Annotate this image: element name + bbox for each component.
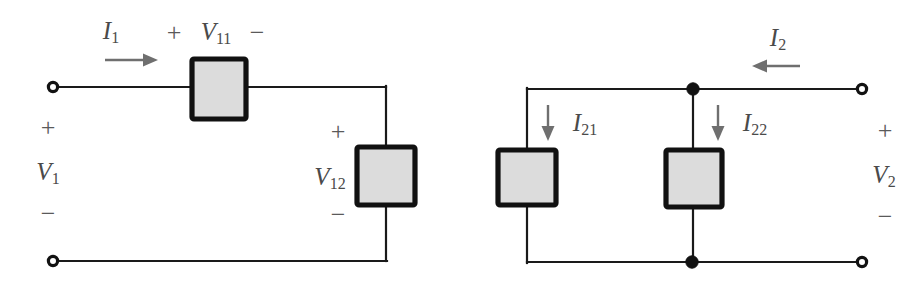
terminal-1-top: [48, 82, 57, 91]
node-top-junction: [687, 83, 699, 95]
current-arrow-i21: [542, 105, 555, 141]
label-i22: I22: [742, 109, 767, 138]
label-v2: V2: [872, 161, 895, 190]
polarity-v1-top: +: [41, 113, 56, 142]
label-i21: I21: [572, 109, 597, 138]
resistor-box-v11: [192, 59, 246, 119]
polarity-v1-bottom: −: [41, 199, 56, 228]
polarity-v12-bottom: −: [331, 200, 346, 229]
terminal-2-top: [857, 84, 866, 93]
resistor-box-i21: [498, 150, 556, 205]
resistor-box-i22: [666, 150, 722, 207]
polarity-v2-top: +: [878, 116, 893, 145]
circuit-diagram-figure: I1 + V11 − + V1 − + V12 −: [0, 0, 911, 283]
terminal-1-bottom: [48, 256, 57, 265]
current-arrow-i1: [105, 54, 158, 67]
left-circuit-group: I1 + V11 − + V1 − + V12 −: [36, 17, 415, 266]
right-circuit-group: I2 I21 I22 + V2 −: [498, 24, 896, 268]
terminal-2-bottom: [857, 257, 866, 266]
circuit-svg-canvas: I1 + V11 − + V1 − + V12 −: [0, 0, 911, 283]
current-arrow-i22: [712, 105, 725, 141]
label-v1: V1: [36, 158, 59, 187]
label-i2: I2: [769, 24, 786, 53]
label-v11: V11: [201, 18, 232, 47]
resistor-box-v12: [357, 147, 415, 205]
polarity-v2-bottom: −: [878, 202, 893, 231]
polarity-v11-left: +: [167, 18, 182, 47]
polarity-v11-right: −: [250, 18, 265, 47]
polarity-v12-top: +: [331, 117, 346, 146]
label-i1: I1: [102, 17, 119, 46]
label-v12: V12: [314, 163, 345, 192]
node-bottom-junction: [686, 256, 698, 268]
current-arrow-i2: [752, 60, 800, 73]
